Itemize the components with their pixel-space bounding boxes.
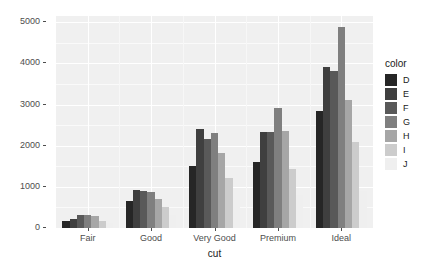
bar: [225, 178, 232, 228]
bar: [233, 200, 240, 228]
y-axis-tick-mark: [43, 186, 46, 187]
bar-group: [189, 16, 240, 228]
legend-item-label: D: [403, 74, 410, 86]
bar: [323, 67, 330, 228]
bar: [211, 133, 218, 228]
plot-panel: [56, 16, 373, 228]
legend-key-swatch: [385, 130, 397, 142]
legend-item-label: J: [403, 158, 408, 170]
bar: [162, 207, 169, 228]
bar: [189, 166, 196, 228]
bar: [126, 201, 133, 228]
x-axis-tick-label: Premium: [260, 233, 296, 243]
gridline-vertical-minor: [310, 16, 311, 228]
bar: [169, 215, 176, 228]
legend-item[interactable]: F: [385, 101, 431, 115]
bar: [218, 153, 225, 228]
bar: [253, 162, 260, 228]
gridline-vertical-minor: [183, 16, 184, 228]
y-axis-tick-labels: 010002000300040005000: [0, 0, 48, 275]
legend-title: color: [385, 58, 431, 69]
y-axis-tick-mark: [43, 62, 46, 63]
gridline-vertical-minor: [246, 16, 247, 228]
bar: [274, 108, 281, 228]
bar: [147, 192, 154, 228]
legend-key-swatch: [385, 74, 397, 86]
legend-item-label: G: [403, 116, 410, 128]
bar: [140, 191, 147, 228]
bar: [359, 191, 366, 228]
bar: [352, 142, 359, 228]
bar: [296, 195, 303, 228]
legend-item[interactable]: H: [385, 129, 431, 143]
y-axis-tick-mark: [43, 21, 46, 22]
bar: [289, 169, 296, 228]
bar: [196, 129, 203, 228]
legend: color DEFGHIJ: [385, 58, 431, 171]
legend-item-label: H: [403, 130, 410, 142]
y-axis-tick-label: 3000: [20, 99, 40, 111]
gridline-vertical-minor: [119, 16, 120, 228]
bar: [77, 215, 84, 228]
bar: [84, 215, 91, 228]
x-axis-tick-mark: [151, 228, 152, 231]
x-axis-tick-mark: [341, 228, 342, 231]
bar: [106, 223, 113, 228]
y-axis-tick-label: 5000: [20, 16, 40, 28]
legend-key-swatch: [385, 88, 397, 100]
legend-item[interactable]: G: [385, 115, 431, 129]
y-axis-tick-mark: [43, 104, 46, 105]
bar: [62, 221, 69, 228]
legend-item-label: E: [403, 88, 409, 100]
legend-item[interactable]: E: [385, 87, 431, 101]
x-axis-tick-label: Good: [140, 233, 162, 243]
y-axis-tick-label: 1000: [20, 181, 40, 193]
bar: [133, 190, 140, 228]
x-axis-tick-label: Ideal: [332, 233, 352, 243]
legend-item[interactable]: J: [385, 157, 431, 171]
bar-group: [62, 16, 113, 228]
bar: [267, 132, 274, 228]
x-axis-title: cut: [56, 248, 373, 259]
legend-key-swatch: [385, 116, 397, 128]
bar-group: [126, 16, 177, 228]
bar: [91, 216, 98, 228]
bar: [316, 111, 323, 228]
bar: [70, 219, 77, 228]
y-axis-tick-label: 0: [35, 222, 40, 234]
x-axis-tick-mark: [215, 228, 216, 231]
bar: [155, 199, 162, 228]
y-axis-tick-label: 2000: [20, 140, 40, 152]
bar: [338, 27, 345, 228]
legend-item[interactable]: D: [385, 73, 431, 87]
x-axis-tick-mark: [278, 228, 279, 231]
legend-key-swatch: [385, 102, 397, 114]
y-axis-tick-label: 4000: [20, 57, 40, 69]
legend-items: DEFGHIJ: [385, 73, 431, 171]
bar: [345, 100, 352, 228]
x-axis-tick-label: Very Good: [193, 233, 236, 243]
bar-group: [253, 16, 304, 228]
legend-key-swatch: [385, 158, 397, 170]
chart-figure: count 010002000300040005000 cut color DE…: [0, 0, 433, 275]
bar: [204, 139, 211, 228]
y-axis-tick-mark: [43, 145, 46, 146]
bar-group: [316, 16, 367, 228]
x-axis-tick-label: Fair: [80, 233, 96, 243]
bar: [260, 132, 267, 228]
bar: [330, 71, 337, 228]
legend-key-swatch: [385, 144, 397, 156]
bar: [99, 221, 106, 228]
y-axis-tick-mark: [43, 227, 46, 228]
bar: [282, 131, 289, 228]
legend-item-label: F: [403, 102, 409, 114]
legend-item[interactable]: I: [385, 143, 431, 157]
legend-item-label: I: [403, 144, 406, 156]
x-axis-tick-mark: [88, 228, 89, 231]
